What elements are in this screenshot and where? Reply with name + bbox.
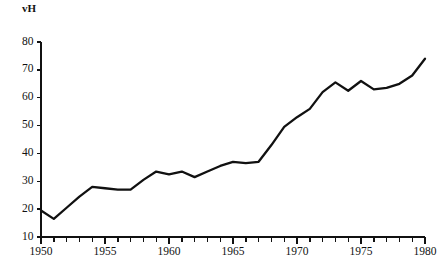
y-tick-label: 10: [12, 230, 34, 242]
y-tick-label: 50: [12, 118, 34, 130]
x-tick-label: 1980: [405, 245, 438, 257]
y-tick-label: 20: [12, 202, 34, 214]
data-line-vh: [41, 59, 425, 219]
y-tick-label: 40: [12, 146, 34, 158]
y-tick-label: 30: [12, 174, 34, 186]
y-tick-label: 80: [12, 35, 34, 47]
x-tick-label: 1970: [277, 245, 317, 257]
line-chart: vH 1020304050607080195019551960196519701…: [0, 0, 438, 268]
chart-ticks: [37, 42, 426, 244]
chart-series: [41, 59, 425, 219]
x-tick-label: 1965: [213, 245, 253, 257]
y-tick-label: 60: [12, 90, 34, 102]
chart-plot-area: [0, 0, 438, 268]
x-tick-label: 1975: [341, 245, 381, 257]
x-tick-label: 1960: [149, 245, 189, 257]
x-tick-label: 1955: [85, 245, 125, 257]
chart-axes: [41, 42, 425, 237]
y-tick-label: 70: [12, 62, 34, 74]
x-tick-label: 1950: [21, 245, 61, 257]
